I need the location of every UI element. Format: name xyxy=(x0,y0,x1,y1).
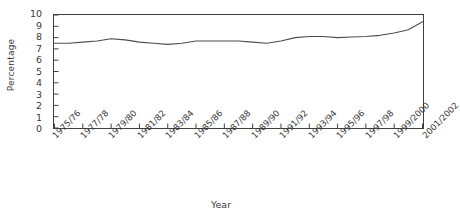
y-axis-tick-label: 6 xyxy=(36,55,42,65)
y-axis-tick-label: 2 xyxy=(36,101,42,111)
y-axis-tick-label: 3 xyxy=(36,90,42,100)
x-axis-title: Year xyxy=(0,199,442,210)
y-axis-tick-labels: 012345678910 xyxy=(0,0,50,220)
y-axis-tick-label: 7 xyxy=(36,44,42,54)
line-chart-svg xyxy=(54,15,423,128)
data-series-line xyxy=(54,22,422,45)
plot-area xyxy=(53,14,424,129)
y-axis-tick-label: 5 xyxy=(36,67,42,77)
y-axis-tick-label: 8 xyxy=(36,32,42,42)
y-axis-tick-label: 4 xyxy=(36,78,42,88)
x-axis-tick-marks xyxy=(54,124,422,128)
y-axis-tick-label: 9 xyxy=(36,21,42,31)
y-axis-tick-label: 10 xyxy=(30,9,42,19)
y-axis-tick-label: 1 xyxy=(36,113,42,123)
x-axis-tick-label: 2001/2002 xyxy=(421,101,460,140)
y-axis-tick-marks xyxy=(54,15,58,128)
y-axis-tick-label: 0 xyxy=(36,124,42,134)
